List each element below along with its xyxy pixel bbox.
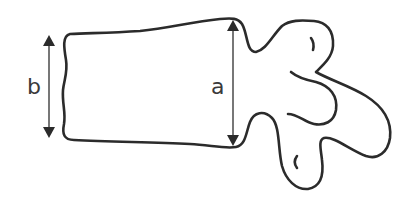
label-a: a: [211, 76, 224, 98]
inner-process-curve: [288, 72, 336, 124]
vertebra-diagram: [0, 0, 416, 200]
vertebra-outline: [63, 19, 390, 190]
lower-lobe-mark: [295, 156, 297, 168]
label-b: b: [27, 76, 41, 98]
upper-lobe-mark: [311, 38, 314, 50]
dimension-a-arrow: [227, 20, 239, 146]
dimension-b-arrow: [43, 35, 55, 138]
